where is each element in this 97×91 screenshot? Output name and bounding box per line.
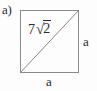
diagonal-coefficient: 7 xyxy=(28,22,35,37)
right-side-label: a xyxy=(83,35,89,49)
diagonal-length-label: 7√2 xyxy=(28,21,51,38)
square-root-icon: √2 xyxy=(35,21,51,38)
geometry-figure: a) 7√2 a a xyxy=(0,0,97,91)
part-label: a) xyxy=(2,3,12,17)
bottom-side-label: a xyxy=(46,75,52,89)
radicand: 2 xyxy=(43,20,51,37)
